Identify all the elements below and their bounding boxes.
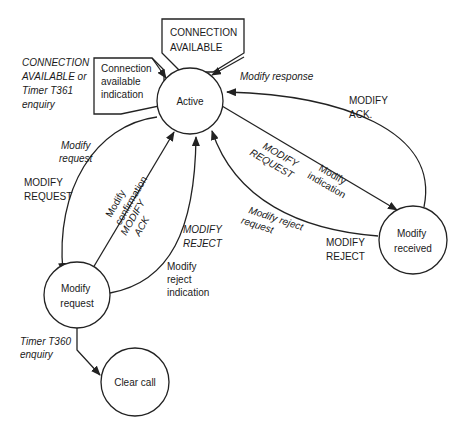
- arrow-timer-t360: [77, 328, 100, 375]
- label-modify-request-italic: Modify request: [59, 140, 94, 164]
- state-active: Active: [157, 68, 223, 134]
- label-modify-reject-request: Modify reject request: [240, 203, 307, 244]
- state-modify-received: Modify received: [379, 206, 447, 274]
- state-active-label: Active: [176, 96, 204, 107]
- label-modify-ack-right: MODIFY ACK.: [349, 95, 391, 120]
- label-modify-request-diag: MODIFY REQUEST: [248, 136, 302, 181]
- label-modify-reject-indication: Modify reject indication: [167, 261, 209, 298]
- state-modify-request: Modify request: [44, 262, 110, 328]
- arrow-modify-indication: [222, 106, 397, 210]
- state-diagram: CONNECTION AVAILABLE Connection availabl…: [0, 0, 465, 434]
- label-modify-reject-caps: MODIFY REJECT: [326, 237, 368, 262]
- state-clear-call-label: Clear call: [114, 377, 156, 388]
- label-modify-reject-italic: MODIFY REJECT: [183, 224, 225, 249]
- label-connection-available-or-timer: CONNECTION AVAILABLE or Timer T361 enqui…: [21, 57, 92, 110]
- state-clear-call: Clear call: [101, 348, 169, 416]
- label-modify-request-caps: MODIFY REQUEST: [24, 177, 72, 202]
- label-modify-indication: Modify indication: [306, 159, 354, 200]
- label-modify-response: Modify response: [240, 71, 314, 82]
- label-timer-t360: Timer T360 enquiry: [20, 336, 74, 360]
